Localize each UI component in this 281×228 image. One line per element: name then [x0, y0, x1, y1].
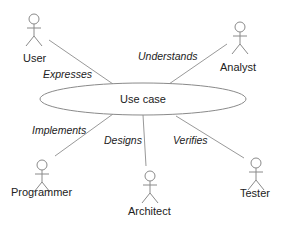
- relation-implements: Implements: [32, 114, 113, 156]
- stick-figure-icon: [248, 158, 264, 190]
- use-case-node: Use case: [40, 83, 246, 115]
- actor-analyst: Analyst: [220, 22, 256, 73]
- relation-label: Understands: [138, 50, 198, 62]
- use-case-label: Use case: [120, 93, 166, 105]
- actor-name: Architect: [128, 205, 171, 217]
- actor-architect: Architect: [128, 171, 171, 217]
- relation-label: Implements: [32, 124, 87, 136]
- actor-user: User: [23, 14, 47, 64]
- relation-label: Designs: [104, 134, 143, 146]
- actor-programmer: Programmer: [11, 160, 72, 198]
- association-line: [143, 115, 146, 166]
- actor-name: Tester: [240, 187, 270, 199]
- use-case-diagram: ExpressesUnderstandsImplementsDesignsVer…: [0, 0, 281, 228]
- relation-understands: Understands: [138, 44, 227, 84]
- relation-designs: Designs: [104, 115, 146, 166]
- actors-layer: UserAnalystProgrammerArchitectTester: [11, 14, 270, 217]
- actor-name: Analyst: [220, 61, 256, 73]
- stick-figure-icon: [142, 171, 158, 203]
- relation-label: Verifies: [173, 134, 208, 146]
- relation-verifies: Verifies: [173, 116, 244, 158]
- actor-tester: Tester: [240, 158, 270, 199]
- actor-name: User: [23, 52, 47, 64]
- actor-name: Programmer: [11, 186, 72, 198]
- relation-label: Expresses: [43, 68, 93, 80]
- stick-figure-icon: [232, 22, 248, 54]
- relation-expresses: Expresses: [43, 40, 113, 84]
- diagram-canvas: ExpressesUnderstandsImplementsDesignsVer…: [0, 0, 281, 228]
- stick-figure-icon: [26, 14, 42, 46]
